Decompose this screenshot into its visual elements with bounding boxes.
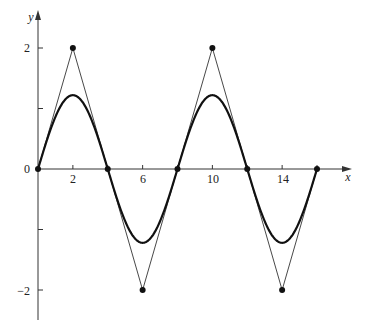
origin-label: 0	[24, 162, 30, 176]
data-point	[314, 166, 320, 172]
y-tick-label-minus-2: −2	[17, 284, 30, 298]
y-axis-label: y	[27, 10, 34, 24]
data-point	[244, 166, 250, 172]
data-point	[140, 287, 146, 293]
data-point	[175, 166, 181, 172]
data-point	[35, 166, 41, 172]
x-tick-label-14: 14	[277, 172, 289, 186]
data-point	[105, 166, 111, 172]
data-point	[70, 45, 76, 51]
axis-labels: y x 0 2 −2 2 6 10 14	[17, 10, 351, 298]
x-tick-label-10: 10	[207, 172, 219, 186]
axes	[35, 10, 352, 320]
y-tick-label-2: 2	[24, 41, 30, 55]
x-tick-label-2: 2	[70, 172, 76, 186]
data-point	[209, 45, 215, 51]
x-axis-label: x	[344, 170, 351, 184]
y-axis-arrow-icon	[35, 10, 41, 20]
chart: y x 0 2 −2 2 6 10 14	[0, 0, 368, 333]
data-point	[279, 287, 285, 293]
x-tick-label-6: 6	[140, 172, 146, 186]
